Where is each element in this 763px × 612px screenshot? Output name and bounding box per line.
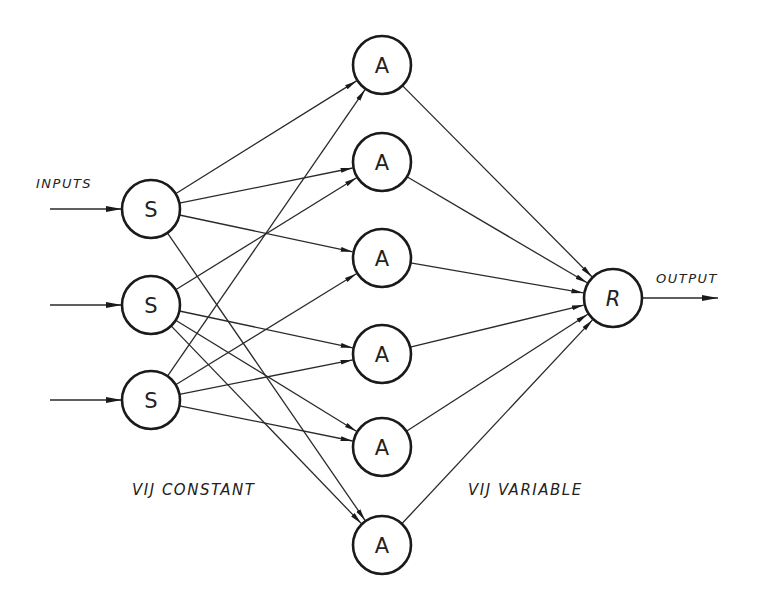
- node-a5: A: [353, 418, 411, 476]
- edge-s3-a5: [179, 406, 352, 441]
- node-s1: S: [122, 180, 180, 238]
- node-label: A: [375, 436, 390, 460]
- node-label: S: [144, 198, 157, 222]
- node-s2: S: [122, 276, 180, 334]
- node-label: A: [375, 534, 390, 558]
- node-a1: A: [353, 36, 411, 94]
- node-label: A: [375, 54, 390, 78]
- edge-a1-r: [402, 86, 592, 277]
- vij-variable-label: VIJ VARIABLE: [468, 481, 583, 499]
- vij-constant-label: VIJ CONSTANT: [132, 481, 256, 499]
- node-a3: A: [353, 229, 411, 287]
- node-label: R: [606, 287, 621, 311]
- node-a4: A: [353, 325, 411, 383]
- node-label: A: [375, 151, 390, 175]
- node-label: S: [144, 389, 157, 413]
- inputs-label: INPUTS: [36, 176, 92, 191]
- output-label: OUTPUT: [656, 271, 718, 286]
- perceptron-diagram: SSSAAAAAAR INPUTS OUTPUT VIJ CONSTANT VI…: [0, 0, 763, 612]
- edge-a3-r: [411, 263, 584, 293]
- node-label: A: [375, 247, 390, 271]
- edge-s2-a5: [176, 320, 357, 431]
- node-label: S: [144, 294, 157, 318]
- input-arrows: [50, 209, 122, 400]
- edge-a5-r: [406, 314, 587, 431]
- node-a6: A: [353, 516, 411, 574]
- edge-s1-a2: [179, 168, 352, 203]
- node-r: R: [584, 269, 642, 327]
- edge-s1-a1: [176, 81, 357, 194]
- node-s3: S: [122, 371, 180, 429]
- edge-s3-a4: [179, 360, 352, 394]
- edge-s3-a3: [176, 274, 357, 385]
- node-a2: A: [353, 133, 411, 191]
- edge-s3-a1: [168, 90, 366, 376]
- edge-a4-r: [410, 305, 584, 347]
- node-label: A: [375, 343, 390, 367]
